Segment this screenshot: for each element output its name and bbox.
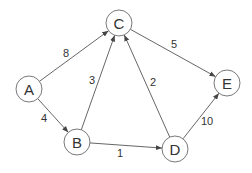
edge-d-c — [124, 35, 169, 137]
arrow-icon — [130, 29, 215, 76]
node-a: A — [16, 76, 42, 102]
node-c: C — [106, 10, 132, 36]
edge-b-c — [81, 35, 114, 129]
edge-weight-label: 10 — [201, 115, 213, 127]
node-d: D — [162, 136, 188, 162]
edge-b-d — [90, 143, 162, 148]
node-label: D — [170, 141, 181, 158]
node-label: B — [72, 134, 82, 151]
node-e: E — [214, 70, 240, 96]
arrow-icon — [90, 143, 162, 148]
edge-weight-label: 3 — [89, 74, 95, 86]
node-b: B — [64, 129, 90, 155]
edge-weight-label: 2 — [150, 76, 156, 88]
edge-weight-label: 5 — [171, 38, 177, 50]
edge-c-e — [130, 29, 215, 76]
edge-a-c — [39, 31, 108, 82]
arrow-icon — [81, 35, 114, 129]
node-label: C — [114, 15, 125, 32]
node-label: A — [24, 81, 34, 98]
arrow-icon — [124, 35, 169, 137]
edge-weight-label: 8 — [63, 47, 69, 59]
edge-weight-label: 1 — [117, 147, 123, 159]
graph-diagram: 84312510 ABCDE — [0, 0, 252, 173]
arrow-icon — [39, 31, 108, 82]
edge-weight-label: 4 — [41, 112, 47, 124]
node-label: E — [222, 75, 232, 92]
nodes-group: ABCDE — [16, 10, 240, 162]
